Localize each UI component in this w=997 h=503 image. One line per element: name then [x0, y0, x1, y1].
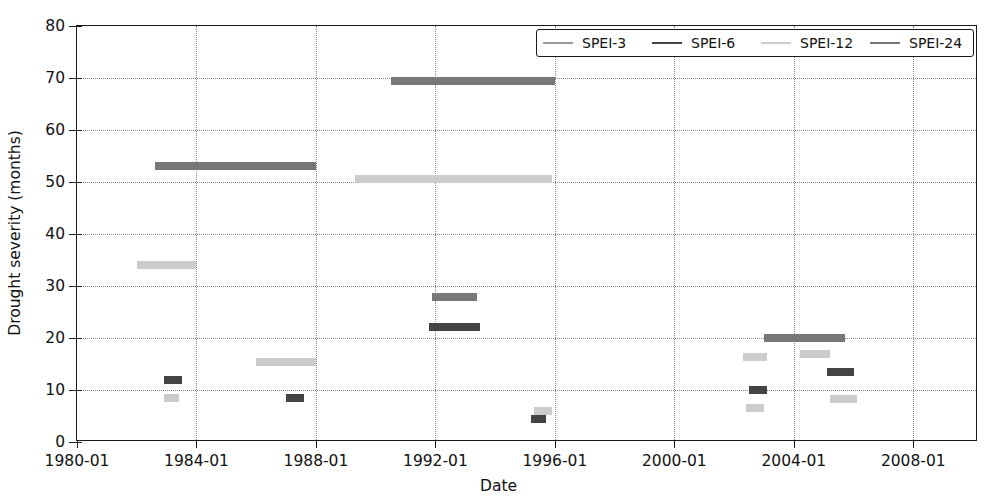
data-segment-spei-12 [164, 394, 179, 402]
y-axis-tick-label: 40 [45, 225, 65, 243]
data-segment-spei-24 [432, 293, 477, 301]
x-axis-tick [794, 440, 795, 448]
data-segment-spei-24 [764, 334, 845, 342]
x-axis-tick [77, 440, 78, 448]
x-axis-tick-label: 1988-01 [284, 452, 349, 470]
data-segment-spei-6 [531, 415, 546, 423]
data-segment-spei-12 [256, 358, 316, 366]
legend-item-spei-12[interactable]: SPEI-12 [755, 35, 864, 51]
y-axis-tick [69, 338, 77, 339]
data-segment-spei-12 [137, 261, 197, 269]
y-axis-tick-label: 80 [45, 17, 65, 35]
legend-label: SPEI-12 [800, 35, 853, 51]
y-axis-tick-label: 50 [45, 173, 65, 191]
legend-line-icon [543, 42, 573, 44]
x-axis-tick-label: 2004-01 [761, 452, 826, 470]
x-axis-tick-label: 1984-01 [164, 452, 229, 470]
legend-item-spei-3[interactable]: SPEI-3 [537, 35, 646, 51]
y-axis-title: Drought severity (months) [6, 130, 24, 336]
y-gridline [77, 390, 976, 391]
data-segment-spei-6 [429, 323, 480, 331]
x-gridline [913, 26, 914, 440]
data-segment-spei-12 [355, 175, 552, 183]
x-gridline [435, 26, 436, 440]
y-gridline [77, 286, 976, 287]
y-axis-tick [69, 130, 77, 131]
chart-legend: SPEI-3SPEI-6SPEI-12SPEI-24 [536, 29, 974, 57]
x-gridline [316, 26, 317, 440]
y-axis-tick-inner [77, 130, 82, 131]
y-gridline [77, 234, 976, 235]
x-axis-tick [674, 440, 675, 448]
data-segment-spei-6 [164, 376, 182, 384]
x-axis-tick-label: 1996-01 [522, 452, 587, 470]
x-axis-tick [316, 440, 317, 448]
y-axis-tick-label: 70 [45, 69, 65, 87]
data-segment-spei-6 [749, 386, 767, 394]
y-axis-tick-inner [77, 390, 82, 391]
legend-label: SPEI-24 [909, 35, 962, 51]
x-axis-tick-label: 2008-01 [881, 452, 946, 470]
y-axis-tick [69, 390, 77, 391]
data-segment-spei-6 [286, 394, 304, 402]
x-axis-tick [555, 440, 556, 448]
y-gridline [77, 130, 976, 131]
data-segment-spei-12 [800, 350, 830, 358]
legend-item-spei-24[interactable]: SPEI-24 [864, 35, 973, 51]
data-segment-spei-6 [827, 368, 854, 376]
legend-label: SPEI-3 [582, 35, 626, 51]
y-axis-tick-inner [77, 182, 82, 183]
x-gridline [674, 26, 675, 440]
y-axis-tick [69, 442, 77, 443]
data-segment-spei-12 [746, 404, 764, 412]
data-segment-spei-12 [830, 395, 857, 403]
y-axis-tick-inner [77, 286, 82, 287]
x-axis-tick [435, 440, 436, 448]
y-axis-tick-label: 10 [45, 381, 65, 399]
y-axis-tick [69, 286, 77, 287]
chart-figure: Drought severity (months) 01020304050607… [0, 0, 997, 503]
legend-line-icon [870, 42, 900, 44]
y-axis-tick [69, 26, 77, 27]
x-axis-tick-label: 1980-01 [45, 452, 110, 470]
x-gridline [196, 26, 197, 440]
y-axis-tick-label: 60 [45, 121, 65, 139]
legend-label: SPEI-6 [691, 35, 735, 51]
x-axis-tick [913, 440, 914, 448]
legend-line-icon [761, 42, 791, 44]
legend-item-spei-6[interactable]: SPEI-6 [646, 35, 755, 51]
y-axis-tick-label: 0 [55, 433, 65, 451]
plot-area: 010203040506070801980-011984-011988-0119… [76, 25, 977, 441]
data-segment-spei-24 [155, 162, 316, 170]
y-axis-tick [69, 182, 77, 183]
y-axis-tick-inner [77, 234, 82, 235]
data-segment-spei-12 [534, 407, 552, 415]
y-axis-tick-inner [77, 338, 82, 339]
y-axis-tick-label: 30 [45, 277, 65, 295]
x-axis-title: Date [0, 477, 997, 495]
y-axis-tick-label: 20 [45, 329, 65, 347]
x-axis-tick-label: 2000-01 [642, 452, 707, 470]
x-gridline [794, 26, 795, 440]
legend-line-icon [652, 42, 682, 44]
y-axis-tick [69, 78, 77, 79]
plot-inner [77, 26, 976, 440]
data-segment-spei-24 [391, 77, 555, 85]
x-axis-tick-label: 1992-01 [403, 452, 468, 470]
y-axis-tick [69, 234, 77, 235]
x-gridline [555, 26, 556, 440]
y-axis-tick-inner [77, 26, 82, 27]
x-axis-tick [196, 440, 197, 448]
y-axis-tick-inner [77, 78, 82, 79]
data-segment-spei-12 [743, 353, 767, 361]
